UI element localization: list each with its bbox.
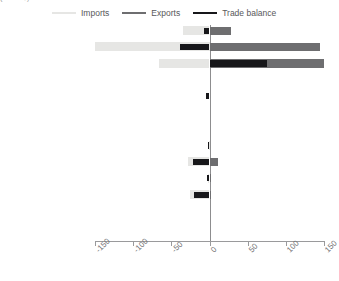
bar-exports: [210, 174, 212, 182]
x-axis-tick-label: 150: [323, 239, 339, 255]
chart-row: South-eastern Europe: [95, 75, 324, 91]
bar-exports: [210, 191, 212, 199]
bar-trade-balance: [207, 175, 209, 181]
chart-legend: ImportsExportsTrade balance: [52, 6, 326, 20]
chart-row: Southern Asia: [95, 174, 324, 190]
x-axis: -150-100-50050100150: [95, 241, 324, 242]
bar-exports: [210, 43, 321, 51]
bar-trade-balance: [193, 159, 210, 165]
bar-exports: [210, 158, 218, 166]
plot-area: Developed Asia-PacificDeveloped EuropeDe…: [95, 25, 324, 240]
legend-label-imports: Imports: [81, 9, 109, 18]
chart-row: C I S: [95, 92, 324, 108]
chart-row: Developed Asia-Pacific: [95, 26, 324, 42]
legend-swatch-trade-balance: [193, 12, 217, 14]
legend-label-trade-balance: Trade balance: [222, 9, 276, 18]
legend-swatch-imports: [52, 12, 76, 14]
chart-row: Eastern Asia: [95, 157, 324, 173]
legend-label-exports: Exports: [151, 9, 180, 18]
legend-item-imports[interactable]: Imports: [52, 9, 109, 18]
bar-trade-balance: [206, 93, 210, 99]
bar-trade-balance: [180, 44, 209, 50]
chart-row: South-eastern Asia: [95, 190, 324, 206]
x-axis-tick-label: -50: [170, 240, 185, 255]
chart-row: Sub-Saharan Africa: [95, 124, 324, 140]
bar-exports: [210, 27, 231, 35]
bar-trade-balance: [208, 142, 210, 148]
bar-trade-balance: [204, 28, 209, 34]
x-axis-tick-label: 0: [209, 245, 219, 255]
chart-row: Developed N. America: [95, 59, 324, 75]
chart-row: Latin Am, Caribbean: [95, 141, 324, 157]
bar-imports: [159, 59, 209, 68]
bar-trade-balance: [210, 60, 267, 66]
chart-row: Developed Europe: [95, 42, 324, 58]
chart-row: Oceania: [95, 223, 324, 239]
x-axis-tick-label: 100: [285, 239, 301, 255]
legend-item-trade-balance[interactable]: Trade balance: [193, 9, 276, 18]
bar-trade-balance: [194, 192, 209, 198]
legend-item-exports[interactable]: Exports: [122, 9, 180, 18]
legend-swatch-exports: [122, 12, 146, 14]
chart-row: Northern Africa: [95, 108, 324, 124]
chart-row: Western Asia: [95, 206, 324, 222]
chart-title-sliver: (bn US$): [0, 0, 30, 1]
